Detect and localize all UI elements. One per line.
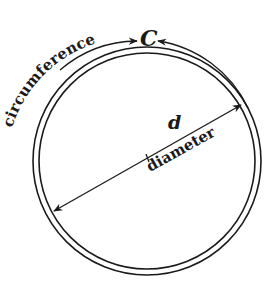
- diameter-symbol: d: [168, 111, 181, 133]
- circumference-symbol: C: [140, 25, 158, 51]
- circle-diagram: circumference C d diameter: [0, 0, 275, 293]
